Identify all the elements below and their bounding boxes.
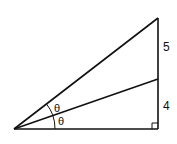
angle-arc-lower: [53, 115, 55, 129]
label-lower-segment: 4: [163, 99, 170, 113]
hypotenuse: [14, 18, 158, 129]
label-upper-segment: 5: [163, 40, 170, 54]
triangle-diagram: 5 4 θ θ: [0, 0, 177, 144]
label-angle-lower: θ: [58, 115, 64, 127]
right-angle-marker: [152, 123, 158, 129]
angle-arc-upper: [47, 104, 53, 115]
label-angle-upper: θ: [54, 102, 60, 114]
angle-bisector: [14, 79, 158, 129]
